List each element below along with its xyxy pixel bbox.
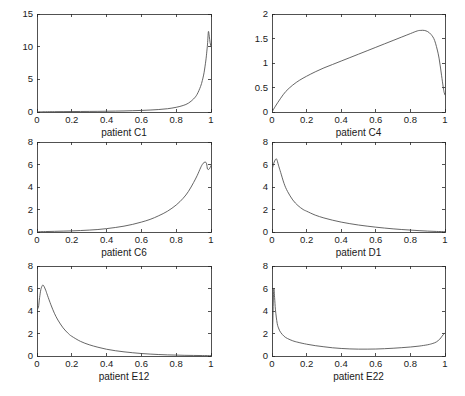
x-tick-label: 0.4 — [100, 114, 113, 125]
y-tick-label: 5 — [28, 73, 33, 84]
x-tick-label: 1 — [442, 234, 447, 245]
plot-panel-e12: 00.20.40.60.8102468patient E12 — [5, 258, 223, 386]
y-tick-label: 2 — [28, 204, 33, 215]
y-tick-label: 8 — [28, 260, 33, 271]
x-tick-label: 0 — [269, 234, 274, 245]
plot-panel-c1: 00.20.40.60.81051015patient C1 — [5, 6, 223, 142]
y-tick-label: 4 — [263, 305, 268, 316]
y-tick-label: 6 — [263, 159, 268, 170]
x-tick-label: 0 — [269, 358, 274, 369]
axes-box — [272, 142, 445, 232]
x-axis-label: patient D1 — [336, 247, 382, 258]
x-tick-label: 0.8 — [170, 234, 183, 245]
y-tick-label: 0 — [28, 350, 33, 361]
x-tick-label: 0.8 — [404, 114, 417, 125]
y-tick-label: 0.5 — [255, 82, 268, 93]
axes-box — [37, 266, 211, 356]
plot-panel-e22: 00.20.40.60.8102468patient E22 — [240, 258, 457, 386]
x-tick-label: 0.6 — [135, 234, 148, 245]
x-tick-label: 0 — [34, 358, 39, 369]
y-tick-label: 10 — [22, 41, 33, 52]
y-tick-label: 6 — [28, 159, 33, 170]
y-tick-label: 8 — [263, 136, 268, 147]
y-tick-label: 15 — [22, 8, 33, 19]
data-curve — [37, 162, 211, 232]
y-tick-label: 4 — [28, 305, 33, 316]
data-curve — [37, 285, 211, 356]
x-tick-label: 1 — [208, 234, 213, 245]
x-tick-label: 1 — [442, 358, 447, 369]
y-tick-label: 0 — [263, 350, 268, 361]
x-tick-label: 0.6 — [369, 114, 382, 125]
x-axis-label: patient E22 — [333, 371, 384, 382]
x-tick-label: 0.2 — [65, 358, 78, 369]
data-curve — [272, 289, 445, 356]
x-tick-label: 0.4 — [100, 234, 113, 245]
y-tick-label: 2 — [263, 204, 268, 215]
x-tick-label: 0.2 — [300, 358, 313, 369]
y-tick-label: 6 — [263, 283, 268, 294]
x-tick-label: 0.8 — [170, 114, 183, 125]
x-tick-label: 0.2 — [65, 234, 78, 245]
axes-box — [37, 14, 211, 112]
x-tick-label: 0 — [34, 234, 39, 245]
y-tick-label: 0 — [263, 106, 268, 117]
x-tick-label: 0.4 — [335, 234, 348, 245]
plot-panel-d1: 00.20.40.60.8102468patient D1 — [240, 134, 457, 262]
x-tick-label: 0.4 — [335, 358, 348, 369]
y-tick-label: 2 — [28, 328, 33, 339]
y-tick-label: 2 — [263, 8, 268, 19]
x-tick-label: 1 — [442, 114, 447, 125]
x-tick-label: 0.8 — [404, 234, 417, 245]
data-curve — [272, 159, 445, 232]
y-tick-label: 4 — [28, 181, 33, 192]
x-tick-label: 0.4 — [335, 114, 348, 125]
plot-panel-c6: 00.20.40.60.8102468patient C6 — [5, 134, 223, 262]
x-axis-label: patient E12 — [99, 371, 150, 382]
x-tick-label: 1 — [208, 358, 213, 369]
x-tick-label: 0.8 — [404, 358, 417, 369]
x-axis-label: patient C6 — [101, 247, 147, 258]
y-tick-label: 4 — [263, 181, 268, 192]
x-tick-label: 0.8 — [170, 358, 183, 369]
y-tick-label: 8 — [263, 260, 268, 271]
x-tick-label: 0 — [269, 114, 274, 125]
y-tick-label: 1 — [263, 57, 268, 68]
data-curve — [272, 30, 445, 112]
data-curve — [37, 31, 211, 111]
figure-multi-panel-plots: 00.20.40.60.81051015patient C100.20.40.6… — [0, 0, 465, 396]
x-tick-label: 1 — [208, 114, 213, 125]
y-tick-label: 0 — [28, 106, 33, 117]
x-tick-label: 0.2 — [300, 234, 313, 245]
x-tick-label: 0.2 — [65, 114, 78, 125]
y-tick-label: 2 — [263, 328, 268, 339]
y-tick-label: 1.5 — [255, 33, 268, 44]
x-tick-label: 0.6 — [369, 358, 382, 369]
x-tick-label: 0.6 — [369, 234, 382, 245]
y-tick-label: 0 — [263, 226, 268, 237]
x-tick-label: 0 — [34, 114, 39, 125]
y-tick-label: 0 — [28, 226, 33, 237]
y-tick-label: 6 — [28, 283, 33, 294]
plot-panel-c4: 00.20.40.60.8100.511.52patient C4 — [240, 6, 457, 142]
y-tick-label: 8 — [28, 136, 33, 147]
x-tick-label: 0.2 — [300, 114, 313, 125]
x-tick-label: 0.6 — [135, 358, 148, 369]
axes-box — [37, 142, 211, 232]
x-tick-label: 0.4 — [100, 358, 113, 369]
axes-box — [272, 14, 445, 112]
x-tick-label: 0.6 — [135, 114, 148, 125]
